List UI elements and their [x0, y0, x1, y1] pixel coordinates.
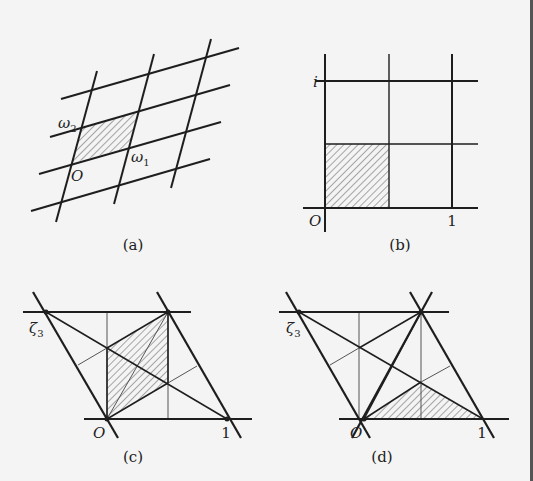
omega1-label: ω1: [131, 148, 150, 168]
caption-c: (c): [123, 448, 143, 466]
panel-a: ω2 ω1 O (a): [31, 39, 239, 254]
caption-b: (b): [389, 236, 410, 254]
origin-label: O: [350, 424, 362, 442]
i-label: i: [313, 73, 318, 91]
caption-a: (a): [123, 236, 144, 254]
one-label: 1: [221, 424, 231, 442]
one-label: 1: [477, 424, 487, 442]
panel-c: ζ3 O 1 (c): [23, 292, 252, 466]
shaded-fundamental-square: [325, 144, 389, 208]
omega2-label: ω2: [58, 114, 77, 134]
zeta3-label: ζ3: [29, 319, 44, 339]
zeta3-label: ζ3: [286, 319, 301, 339]
caption-d: (d): [371, 448, 392, 466]
panel-d: ζ3 O 1 (d): [279, 292, 509, 466]
origin-label: O: [309, 212, 321, 230]
one-label: 1: [447, 212, 457, 230]
origin-label: O: [93, 424, 105, 442]
panel-b: i O 1 (b): [303, 54, 478, 254]
figure-lattices: ω2 ω1 O (a) i O 1 (b): [0, 0, 533, 481]
origin-label: O: [71, 167, 83, 185]
